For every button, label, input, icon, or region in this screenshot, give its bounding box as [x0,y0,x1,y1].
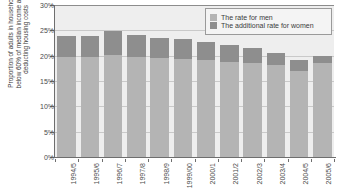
x-tick-mark [125,159,126,162]
x-tick-label: 2002/3 [256,163,263,184]
bar-segment-men [127,57,146,158]
bar-segment-women [290,60,309,71]
y-tick-label: 20% [20,52,54,59]
x-tick-mark [288,159,289,162]
legend-swatch-women-icon [210,22,217,29]
x-tick-label: 1995/6 [93,163,100,184]
bar-group [174,6,193,158]
bar-segment-women [81,36,100,56]
x-tick-mark [195,159,196,162]
x-tick-mark [148,159,149,162]
legend-swatch-men-icon [210,14,217,21]
y-tick-label: 10% [20,103,54,110]
x-axis-ticks: 1994/51995/61996/71997/81998/91999/00200… [0,159,338,194]
stacked-bar-chart: Proportion of adults in households below… [0,0,338,194]
x-tick-mark [334,159,335,162]
x-tick-label: 2004/5 [302,163,309,184]
bar-segment-women [267,53,286,65]
bar-segment-women [220,45,239,62]
x-tick-mark [102,159,103,162]
legend-label-women: The additional rate for women [221,22,314,29]
bar-group [81,6,100,158]
bar-segment-women [243,48,262,63]
x-tick-label: 1997/8 [139,163,146,184]
bar-segment-men [243,63,262,158]
x-tick-mark [171,159,172,162]
x-tick-mark [311,159,312,162]
x-tick-mark [55,159,56,162]
y-axis-ticks: 0%5%10%15%20%25%30% [0,0,54,165]
x-tick-label: 2001/2 [232,163,239,184]
bar-group [150,6,169,158]
bar-segment-women [197,42,216,60]
bar-segment-men [174,59,193,158]
x-tick-label: 1994/5 [70,163,77,184]
x-tick-label: 1996/7 [116,163,123,184]
bar-segment-men [150,58,169,158]
y-tick-label: 30% [20,2,54,9]
x-tick-mark [78,159,79,162]
bar-segment-women [174,39,193,58]
y-tick-label: 25% [20,27,54,34]
bar-segment-men [104,55,123,158]
bar-segment-men [57,57,76,158]
legend: The rate for men The additional rate for… [205,8,332,35]
bar-segment-women [104,31,123,55]
bar-segment-men [313,63,332,158]
legend-label-men: The rate for men [221,14,273,21]
legend-item-women: The additional rate for women [210,22,327,29]
bar-segment-women [57,36,76,56]
bar-group [57,6,76,158]
bar-segment-women [313,56,332,63]
x-tick-label: 1998/9 [163,163,170,184]
x-tick-mark [218,159,219,162]
y-tick-label: 15% [20,78,54,85]
x-tick-label: 2005/6 [325,163,332,184]
x-tick-mark [241,159,242,162]
x-tick-mark [264,159,265,162]
bar-segment-men [267,65,286,158]
x-tick-label: 2003/4 [279,163,286,184]
bar-group [104,6,123,158]
bar-segment-men [220,62,239,158]
x-tick-label: 1999/00 [186,163,193,188]
bar-segment-men [197,60,216,158]
bar-group [127,6,146,158]
bar-segment-women [127,35,146,57]
y-tick-label: 5% [20,128,54,135]
x-tick-label: 2000/1 [209,163,216,184]
bar-segment-women [150,38,169,58]
legend-item-men: The rate for men [210,14,327,21]
bar-segment-men [290,71,309,158]
bar-segment-men [81,57,100,158]
